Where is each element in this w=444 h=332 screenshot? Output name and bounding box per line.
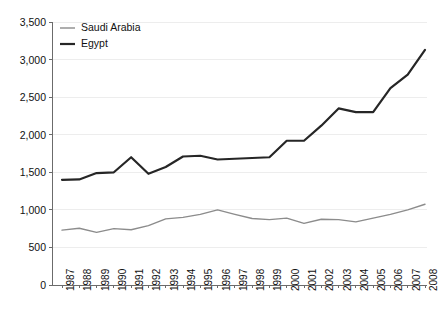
x-axis-tick-label: 1993 xyxy=(170,269,180,291)
legend-label-egypt: Egypt xyxy=(81,38,108,49)
y-axis-tick-label: 0 xyxy=(40,280,46,291)
x-axis-tick-label: 2007 xyxy=(412,269,422,291)
x-axis-tick-label: 1991 xyxy=(135,269,145,291)
y-axis-tick-label: 2,000 xyxy=(20,130,46,141)
x-axis-tick-label: 2003 xyxy=(343,269,353,291)
series-line-egypt xyxy=(62,50,425,180)
x-axis-tick-label: 1994 xyxy=(187,269,197,291)
x-axis-tick-label: 1990 xyxy=(118,269,128,291)
y-axis-tick-label: 3,000 xyxy=(20,55,46,66)
x-axis-tick-label: 1998 xyxy=(256,269,266,291)
x-axis-tick-label: 1989 xyxy=(101,269,111,291)
line-chart: 05001,0001,5002,0002,5003,0003,500 19871… xyxy=(0,0,444,332)
x-axis-tick-label: 1987 xyxy=(66,269,76,291)
x-axis-tick-label: 2006 xyxy=(394,269,404,291)
x-axis-tick-label: 2001 xyxy=(308,269,318,291)
x-axis-tick-label: 1988 xyxy=(83,269,93,291)
x-axis-tick-label: 2008 xyxy=(429,269,439,291)
x-axis-tick-label: 1999 xyxy=(273,269,283,291)
legend-label-saudi-arabia: Saudi Arabia xyxy=(81,22,141,33)
y-axis-tick-label: 500 xyxy=(28,242,46,253)
y-axis-tick-label: 3,500 xyxy=(20,17,46,28)
x-axis-tick-label: 2004 xyxy=(360,269,370,291)
x-axis-tick-label: 2000 xyxy=(291,269,301,291)
x-axis-tick-label: 1996 xyxy=(222,269,232,291)
y-axis-tick-label: 1,000 xyxy=(20,205,46,216)
series-line-saudi-arabia xyxy=(62,204,425,232)
x-axis-tick-label: 2002 xyxy=(325,269,335,291)
x-axis-tick-label: 1995 xyxy=(204,269,214,291)
y-axis-tick-label: 1,500 xyxy=(20,167,46,178)
x-axis-tick-label: 1997 xyxy=(239,269,249,291)
y-axis-tick-label: 2,500 xyxy=(20,92,46,103)
x-axis-tick-label: 2005 xyxy=(377,269,387,291)
x-axis-tick-label: 1992 xyxy=(152,269,162,291)
